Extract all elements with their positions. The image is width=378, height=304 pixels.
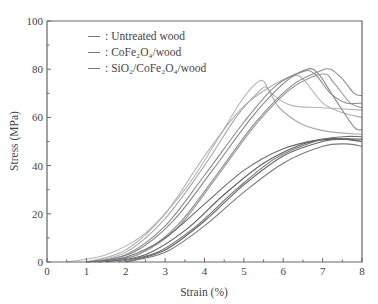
y-axis-title: Stress (MPa) xyxy=(8,111,21,171)
x-axis-title: Strain (%) xyxy=(180,286,228,299)
svg-text:60: 60 xyxy=(32,111,44,123)
series-curve xyxy=(126,139,362,262)
legend-separator: : xyxy=(105,28,108,44)
svg-text:0: 0 xyxy=(38,256,44,268)
legend-label: CoFe₂O₄/wood xyxy=(111,44,181,60)
legend-separator: : xyxy=(105,44,108,60)
svg-text:80: 80 xyxy=(32,63,44,75)
series-curve xyxy=(98,69,362,262)
legend-label: SiO₂/CoFe₂O₄/wood xyxy=(111,60,206,76)
svg-text:1: 1 xyxy=(84,265,90,277)
legend-item-sio2-cofe2o4: : SiO₂/CoFe₂O₄/wood xyxy=(88,60,206,76)
legend: : Untreated wood : CoFe₂O₄/wood : SiO₂/C… xyxy=(88,28,206,76)
series-curve xyxy=(126,144,362,262)
series-curve xyxy=(86,75,362,262)
series-curve xyxy=(94,69,362,262)
legend-item-cofe2o4: : CoFe₂O₄/wood xyxy=(88,44,206,60)
svg-text:3: 3 xyxy=(162,265,168,277)
svg-text:4: 4 xyxy=(202,265,208,277)
curves xyxy=(67,69,362,262)
legend-separator: : xyxy=(105,60,108,76)
series-curve xyxy=(118,136,362,262)
svg-text:2: 2 xyxy=(123,265,129,277)
svg-text:8: 8 xyxy=(359,265,365,277)
svg-text:100: 100 xyxy=(27,15,44,27)
legend-label: Untreated wood xyxy=(111,28,185,44)
legend-line-icon xyxy=(88,36,100,37)
svg-text:6: 6 xyxy=(281,265,287,277)
svg-text:5: 5 xyxy=(241,265,247,277)
svg-text:0: 0 xyxy=(44,265,50,277)
svg-text:40: 40 xyxy=(32,160,44,172)
legend-item-untreated: : Untreated wood xyxy=(88,28,206,44)
series-curve xyxy=(67,80,362,262)
legend-line-icon xyxy=(88,68,100,69)
legend-line-icon xyxy=(88,52,100,53)
svg-text:20: 20 xyxy=(32,208,44,220)
svg-text:7: 7 xyxy=(320,265,326,277)
series-curve xyxy=(86,87,362,262)
